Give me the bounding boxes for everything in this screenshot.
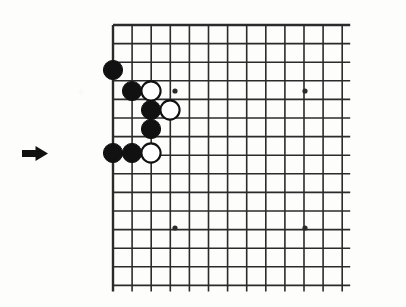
- star-point-bottom-right-icon: [302, 225, 307, 230]
- black-stone-1[interactable]: [103, 60, 122, 79]
- star-point-top-right-icon: [302, 88, 307, 93]
- star-point-bottom-left-icon: [172, 225, 177, 230]
- white-stone-1[interactable]: [141, 81, 160, 100]
- go-board[interactable]: [0, 0, 406, 307]
- black-stone-6[interactable]: [122, 143, 141, 162]
- black-stone-3[interactable]: [141, 100, 160, 119]
- star-point-top-left-icon: [172, 88, 177, 93]
- arrow-marker-icon: [22, 146, 48, 161]
- star-points: [172, 88, 307, 230]
- go-diagram-figure: [0, 0, 406, 307]
- arrow-marker-layer: [22, 146, 48, 161]
- white-stone-3[interactable]: [141, 143, 160, 162]
- black-stone-2[interactable]: [122, 81, 141, 100]
- white-stone-2[interactable]: [160, 100, 179, 119]
- stones-layer[interactable]: [103, 60, 179, 162]
- black-stone-5[interactable]: [103, 143, 122, 162]
- black-stone-4[interactable]: [141, 119, 160, 138]
